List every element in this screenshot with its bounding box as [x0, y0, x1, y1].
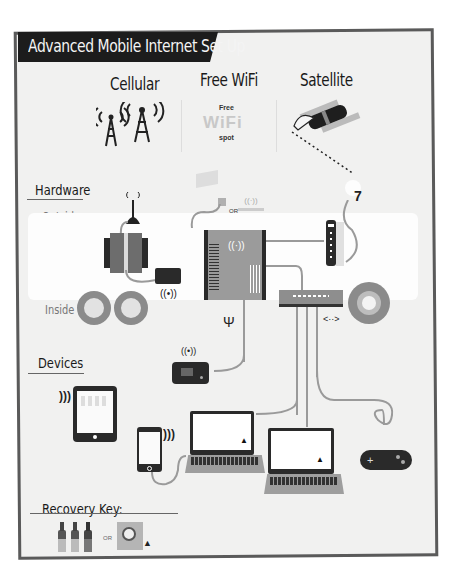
satellite-signal-line [290, 130, 360, 180]
cursor-icon: ▲ [316, 455, 324, 464]
main-router: ((·)) [204, 230, 266, 300]
cable-wire [148, 452, 188, 492]
cable-wire [338, 200, 368, 270]
signal-icon: ((•)) [160, 288, 177, 299]
or-label: OR [229, 208, 238, 214]
wireless-signal-icon: ))) [163, 427, 175, 441]
game-controller-device[interactable]: + [360, 450, 412, 470]
divider [276, 100, 277, 152]
section-underline [30, 513, 178, 514]
bridge-arrows-icon: <··> [323, 314, 340, 324]
tablet-device[interactable] [73, 386, 117, 442]
section-underline [28, 373, 84, 374]
section-underline [27, 199, 83, 200]
wifi-hotspot-icon: Free WiFi spot [195, 104, 255, 144]
cellular-booster [104, 233, 148, 273]
or-label: OR [103, 535, 112, 541]
laptop-keyboard [264, 474, 344, 494]
mobile-hotspot[interactable] [172, 362, 209, 384]
inside-antenna [155, 268, 181, 284]
wheel-icon [77, 291, 111, 325]
laptop-device[interactable]: ▲ [268, 428, 334, 474]
source-title-satellite: Satellite [300, 70, 353, 90]
section-title-recovery-key: Recovery Key: [42, 501, 123, 517]
wireless-signal-icon: ))) [59, 389, 71, 403]
cursor-icon: ▲ [240, 436, 248, 445]
signal-icon: ((•)) [181, 346, 196, 356]
cable-wire [120, 270, 160, 290]
cable-wire [266, 240, 324, 242]
hand-cursor-icon: ▲ [143, 538, 152, 548]
wine-bottles-icon [58, 522, 98, 552]
section-title-devices: Devices [38, 355, 83, 371]
antenna-icon [118, 188, 158, 234]
cable-wire [296, 307, 298, 415]
wheel-icon [348, 282, 390, 324]
source-title-free-wifi: Free WiFi [200, 70, 258, 90]
usb-icon: Ψ [223, 314, 235, 330]
satellite-modem [326, 220, 336, 266]
laptop-keyboard [185, 455, 265, 473]
divider [181, 100, 182, 152]
cable-wire [210, 355, 250, 379]
wifi-router-outside: ((·)) [238, 196, 264, 211]
source-title-cellular: Cellular [110, 74, 159, 94]
cable-wire [243, 300, 245, 362]
ethernet-switch [279, 290, 343, 307]
cable-wire [316, 307, 318, 377]
cable-wire [306, 307, 308, 427]
wifi-icon: ((·)) [228, 240, 245, 251]
cable-wire [314, 370, 404, 430]
recovery-image-icon [117, 522, 143, 550]
cable-wire [254, 400, 304, 420]
laptop-device[interactable]: ▲ [190, 411, 254, 455]
wheel-icon [114, 291, 148, 325]
cell-tower-icon [96, 102, 166, 150]
inside-label: Inside [45, 303, 74, 317]
page-title: Advanced Mobile Internet Set Up [28, 36, 245, 56]
section-title-hardware: Hardware [35, 182, 90, 198]
